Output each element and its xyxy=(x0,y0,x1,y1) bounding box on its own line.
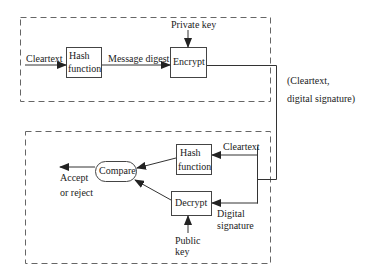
sender-hash-label-2: function xyxy=(68,63,101,75)
signature-label-2: signature xyxy=(217,220,254,232)
receiver-hash-label-1: Hash xyxy=(180,147,201,159)
public-key-label-2: key xyxy=(175,246,189,258)
channel-line xyxy=(207,66,277,180)
signature-label-1: Digital xyxy=(217,208,245,220)
output-label-1: Accept xyxy=(60,172,88,184)
compare-label: Compare xyxy=(99,165,136,177)
hash-to-compare-arrow xyxy=(137,158,176,168)
decrypt-to-compare-arrow xyxy=(135,180,171,200)
sender-hash-label-1: Hash xyxy=(69,50,90,62)
receiver-hash-label-2: function xyxy=(178,161,211,173)
channel-label-1: (Cleartext, xyxy=(287,75,329,87)
encrypt-label: Encrypt xyxy=(173,56,205,68)
cleartext-input-label: Cleartext xyxy=(26,53,63,65)
receiver-cleartext-label: Cleartext xyxy=(223,141,260,153)
output-label-2: or reject xyxy=(60,187,93,199)
digest-label: Message digest xyxy=(108,53,169,65)
private-key-label: Private key xyxy=(171,19,216,31)
decrypt-label: Decrypt xyxy=(175,197,207,209)
channel-label-2: digital signature) xyxy=(287,93,355,105)
